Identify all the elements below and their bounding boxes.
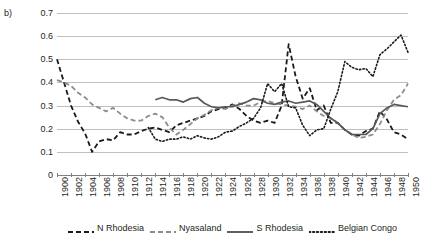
y-tick-label: 0.2 bbox=[19, 125, 53, 134]
x-tick-label: 1944 bbox=[370, 177, 379, 197]
y-tick-label: 0.6 bbox=[19, 32, 53, 41]
series-line bbox=[57, 80, 408, 138]
x-tick-mark bbox=[296, 173, 297, 177]
x-tick-label: 1948 bbox=[398, 177, 407, 197]
x-tick-mark bbox=[183, 173, 184, 177]
x-tick-mark bbox=[141, 173, 142, 177]
x-tick-mark bbox=[380, 173, 381, 177]
y-tick-label: 0.1 bbox=[19, 148, 53, 157]
x-tick-label: 1934 bbox=[300, 177, 309, 197]
x-tick-mark bbox=[394, 173, 395, 177]
chart-legend: N RhodesiaNyasalandS RhodesiaBelgian Con… bbox=[57, 221, 408, 235]
x-tick-mark bbox=[225, 173, 226, 177]
x-tick-mark bbox=[338, 173, 339, 177]
x-tick-mark bbox=[324, 173, 325, 177]
plot-area bbox=[57, 13, 408, 175]
x-tick-label: 1918 bbox=[187, 177, 196, 197]
legend-label: Nyasaland bbox=[179, 223, 222, 233]
x-tick-mark bbox=[366, 173, 367, 177]
x-tick-mark bbox=[113, 173, 114, 177]
x-tick-label: 1908 bbox=[117, 177, 126, 197]
x-tick-label: 1940 bbox=[342, 177, 351, 197]
y-tick-label: 0 bbox=[19, 171, 53, 180]
x-tick-label: 1916 bbox=[173, 177, 182, 197]
axis-baseline bbox=[57, 175, 408, 176]
y-tick-label: 0.3 bbox=[19, 102, 53, 111]
series-line bbox=[148, 35, 408, 141]
x-tick-label: 1938 bbox=[328, 177, 337, 197]
x-tick-label: 1924 bbox=[229, 177, 238, 197]
legend-item[interactable]: S Rhodesia bbox=[227, 223, 303, 233]
legend-label: S Rhodesia bbox=[256, 223, 303, 233]
legend-item[interactable]: N Rhodesia bbox=[68, 223, 144, 233]
x-tick-mark bbox=[211, 173, 212, 177]
legend-label: N Rhodesia bbox=[97, 223, 144, 233]
x-tick-label: 1906 bbox=[103, 177, 112, 197]
x-tick-label: 1902 bbox=[75, 177, 84, 197]
x-tick-mark bbox=[268, 173, 269, 177]
x-tick-mark bbox=[282, 173, 283, 177]
x-tick-label: 1914 bbox=[159, 177, 168, 197]
x-tick-mark bbox=[127, 173, 128, 177]
x-tick-mark bbox=[85, 173, 86, 177]
x-tick-label: 1910 bbox=[131, 177, 140, 197]
x-axis: 1900190219041906190819101912191419161918… bbox=[57, 177, 408, 217]
y-tick-label: 0.7 bbox=[19, 9, 53, 18]
x-tick-mark bbox=[352, 173, 353, 177]
x-tick-label: 1932 bbox=[286, 177, 295, 197]
x-tick-label: 1942 bbox=[356, 177, 365, 197]
legend-key-icon bbox=[68, 223, 94, 233]
panel-label: b) bbox=[4, 8, 12, 18]
x-tick-label: 1922 bbox=[215, 177, 224, 197]
x-tick-mark bbox=[71, 173, 72, 177]
x-tick-label: 1936 bbox=[314, 177, 323, 197]
x-tick-mark bbox=[155, 173, 156, 177]
x-tick-label: 1950 bbox=[412, 177, 421, 197]
x-tick-label: 1912 bbox=[145, 177, 154, 197]
x-tick-label: 1920 bbox=[201, 177, 210, 197]
x-tick-mark bbox=[310, 173, 311, 177]
x-tick-label: 1926 bbox=[244, 177, 253, 197]
x-tick-mark bbox=[254, 173, 255, 177]
legend-label: Belgian Congo bbox=[338, 223, 397, 233]
x-tick-mark bbox=[99, 173, 100, 177]
x-tick-label: 1928 bbox=[258, 177, 267, 197]
y-tick-label: 0.5 bbox=[19, 55, 53, 64]
legend-item[interactable]: Nyasaland bbox=[150, 223, 222, 233]
x-tick-label: 1900 bbox=[61, 177, 70, 197]
y-tick-label: 0.4 bbox=[19, 78, 53, 87]
x-tick-mark bbox=[240, 173, 241, 177]
x-tick-mark bbox=[197, 173, 198, 177]
x-tick-mark bbox=[408, 173, 409, 177]
x-tick-mark bbox=[169, 173, 170, 177]
x-tick-label: 1930 bbox=[272, 177, 281, 197]
series-layer bbox=[57, 13, 408, 175]
x-tick-label: 1946 bbox=[384, 177, 393, 197]
legend-key-icon bbox=[309, 223, 335, 233]
x-tick-label: 1904 bbox=[89, 177, 98, 197]
y-axis: 00.10.20.30.40.50.60.7 bbox=[18, 13, 53, 175]
legend-key-icon bbox=[150, 223, 176, 233]
x-tick-mark bbox=[57, 173, 58, 177]
legend-item[interactable]: Belgian Congo bbox=[309, 223, 397, 233]
legend-key-icon bbox=[227, 223, 253, 233]
